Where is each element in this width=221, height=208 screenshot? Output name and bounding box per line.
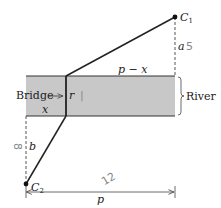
label-c2: C2 — [31, 181, 44, 195]
handwritten-b-value: 8 — [11, 143, 24, 150]
label-p-minus-x: p − x — [118, 63, 148, 76]
label-a: a — [178, 40, 185, 53]
label-b: b — [29, 140, 36, 153]
label-c1: C1 — [180, 11, 193, 25]
point-c2 — [24, 182, 29, 187]
handwritten-p-value: 12 — [99, 170, 118, 188]
bridge-river-diagram: C1 C2 a b r x p − x p Bridge River 5 8 1… — [0, 0, 221, 208]
handwritten-a-value: 5 — [186, 40, 193, 53]
label-r: r — [69, 89, 75, 102]
point-c1 — [173, 15, 178, 20]
label-p: p — [97, 193, 104, 206]
label-river: River — [186, 90, 217, 103]
label-x: x — [42, 103, 49, 116]
river-brace — [178, 77, 184, 115]
label-bridge: Bridge — [16, 89, 53, 102]
handwritten-r-value: | — [80, 89, 84, 102]
